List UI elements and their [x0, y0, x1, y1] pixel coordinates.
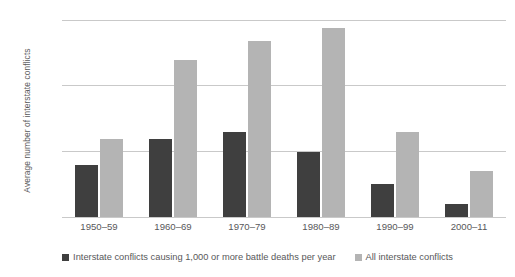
- bars-layer: [62, 22, 506, 219]
- bar: [396, 132, 419, 217]
- bar: [297, 152, 320, 217]
- bar-group: [146, 22, 200, 218]
- legend-entry: Interstate conflicts causing 1,000 or mo…: [62, 253, 336, 262]
- bar: [149, 139, 172, 217]
- legend-entry: All interstate conflicts: [355, 253, 453, 262]
- bar-chart: Average number of interstate conflicts 0…: [0, 0, 515, 277]
- x-axis-tick-label: 2000–11: [432, 222, 506, 232]
- bar: [470, 171, 493, 217]
- bar-group: [294, 22, 348, 218]
- bar: [174, 60, 197, 217]
- bar: [100, 139, 123, 217]
- legend-label: Interstate conflicts causing 1,000 or mo…: [73, 253, 336, 262]
- bar: [445, 204, 468, 217]
- x-axis-tick-label: 1990–99: [358, 222, 432, 232]
- bar-group: [220, 22, 274, 218]
- bar-group: [368, 22, 422, 218]
- bar: [322, 28, 345, 217]
- chart-legend: Interstate conflicts causing 1,000 or mo…: [0, 253, 515, 262]
- y-axis-title: Average number of interstate conflicts: [18, 13, 36, 228]
- x-axis-tick-label: 1980–89: [284, 222, 358, 232]
- legend-swatch-icon: [355, 254, 362, 261]
- x-axis-tick-label: 1960–69: [136, 222, 210, 232]
- x-axis-tick-label: 1970–79: [210, 222, 284, 232]
- legend-swatch-icon: [62, 254, 69, 261]
- bar-group: [72, 22, 126, 218]
- x-axis-tick-label: 1950–59: [62, 222, 136, 232]
- bar: [223, 132, 246, 217]
- bar: [371, 184, 394, 217]
- bar: [248, 41, 271, 217]
- bar-group: [442, 22, 496, 218]
- bar: [75, 165, 98, 217]
- plot-area: 0123 1950–591960–691970–791980–891990–99…: [62, 22, 506, 219]
- legend-label: All interstate conflicts: [366, 253, 453, 262]
